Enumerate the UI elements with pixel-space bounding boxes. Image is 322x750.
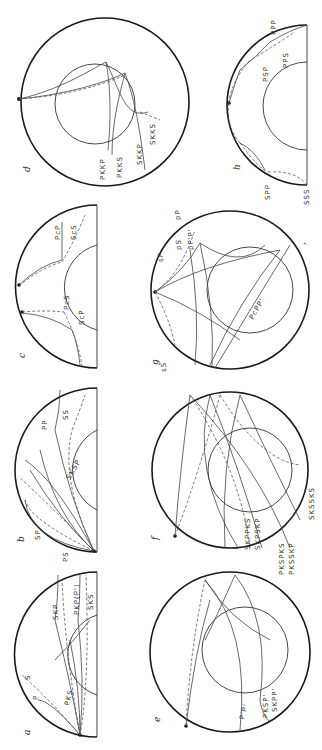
- label-pksp: PKSP': [262, 694, 270, 718]
- label-skp: SKP: [52, 604, 60, 620]
- panel-label-d: d: [22, 166, 32, 172]
- label-ps: PS: [62, 551, 70, 562]
- label-skks: SKKS: [149, 123, 157, 145]
- label-ss: sS: [160, 362, 168, 372]
- label-ppp: PPP: [270, 19, 278, 35]
- label-ps: pS: [175, 239, 183, 250]
- panel-f: SKPPKS SKPSKP PKSPKS PKSSKP SKSSKS f: [150, 392, 316, 575]
- label-s: S: [24, 675, 32, 680]
- label-pkks: PKKS: [116, 156, 124, 178]
- label-pcs: PcS: [63, 294, 71, 310]
- panel-label-c: c: [17, 353, 27, 358]
- label-sp: sP: [157, 252, 165, 262]
- label-pkp: PKP(P'): [73, 583, 81, 615]
- label-pkspks: PKSPKS: [278, 542, 286, 575]
- label-psp: PSP: [262, 66, 270, 82]
- label-sss: SSS: [303, 189, 311, 205]
- panel-c: PcP ScS PcS ScP c: [15, 205, 97, 368]
- label-pppp: pP'P': [187, 228, 195, 250]
- panel-label-f: f: [150, 535, 160, 541]
- label-pcp: PcP: [54, 225, 62, 240]
- label-scp: ScP: [78, 309, 86, 325]
- label-pksskp: PKSSKP: [288, 542, 296, 575]
- label-sp: SP: [34, 529, 42, 540]
- label-skkp: SKKP: [136, 143, 144, 165]
- label-skpp: SKPP': [271, 688, 279, 712]
- panel-h: PPP PSP PPS SPP SSS h: [227, 19, 311, 205]
- panel-label-g: g: [150, 359, 160, 365]
- panel-label-h: h: [232, 164, 242, 170]
- label-skppks: SKPPKS: [244, 517, 252, 550]
- label-pps: PPS: [282, 52, 290, 68]
- label-sksp: SKSP: [65, 458, 83, 481]
- label-scs: ScS: [70, 224, 78, 240]
- panel-a: P S PKS SKP PKP(P') SKS a: [14, 572, 97, 737]
- label-sks: SKS: [87, 594, 95, 610]
- label-pkkp: PKKP: [99, 158, 107, 180]
- seismic-ray-path-figure: PKKP PKKS SKKP SKKS d PPP PSP PPS SPP SS…: [0, 0, 322, 750]
- label-spp: SPP: [264, 184, 272, 200]
- label-p: P: [32, 695, 40, 700]
- label-pp: PP: [41, 420, 49, 430]
- label-sksSks: SKSSKS: [308, 487, 316, 520]
- panel-label-e: e: [152, 717, 162, 722]
- panel-d: PKKP PKKS SKKP SKKS d: [17, 18, 189, 186]
- panel-b: PP SS SKSP SP PS b: [15, 388, 97, 562]
- label-ss: SS: [62, 409, 70, 420]
- panel-e: P'P' PKSP' SKPP' e: [150, 572, 310, 732]
- label-skpskp: SKPSKP: [254, 517, 262, 550]
- label-pp: pP: [174, 209, 182, 220]
- panel-label-b: b: [16, 536, 26, 542]
- label-pp: P'P': [238, 703, 250, 721]
- panel-g: pP pS pP'P' sP sS PcPP' g ,: [150, 209, 309, 372]
- panel-label-a: a: [22, 730, 32, 735]
- label-pks: PKS: [63, 689, 75, 707]
- panel-mark: ,: [297, 242, 307, 245]
